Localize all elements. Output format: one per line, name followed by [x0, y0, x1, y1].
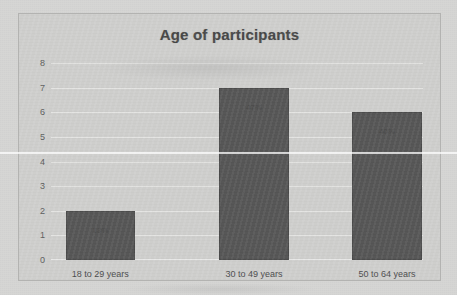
chart-title: Age of participants: [19, 26, 440, 43]
y-axis-tick-6: 6: [40, 107, 45, 117]
bar-30-to-49-years[interactable]: 47%: [219, 88, 289, 260]
bar-50-to-64-years[interactable]: 40%: [352, 112, 422, 260]
x-axis-category-label-1: 30 to 49 years: [219, 269, 289, 279]
bar-value-label-1: 47%: [220, 103, 288, 112]
y-axis-tick-8: 8: [40, 58, 45, 68]
bar-value-label-0: 13%: [67, 226, 134, 235]
y-axis-tick-0: 0: [40, 255, 45, 265]
scan-smudge-bottom: [120, 283, 320, 295]
x-axis-category-label-0: 18 to 29 years: [66, 269, 135, 279]
y-axis-tick-5: 5: [40, 132, 45, 142]
y-axis-tick-1: 1: [40, 230, 45, 240]
gridline-8: [51, 63, 423, 64]
y-axis-tick-2: 2: [40, 206, 45, 216]
bar-18-to-29-years[interactable]: 13%: [66, 211, 135, 260]
plot-area: 8 7 6 5 4 3 2 1 0 13% 18 to 29 years: [51, 63, 423, 260]
bar-value-label-2: 40%: [353, 127, 421, 136]
chart-container: Age of participants 8 7 6 5 4 3 2 1 0: [18, 13, 441, 281]
y-axis-tick-3: 3: [40, 181, 45, 191]
y-axis-tick-7: 7: [40, 83, 45, 93]
y-axis-tick-4: 4: [40, 157, 45, 167]
x-axis-category-label-2: 50 to 64 years: [352, 269, 422, 279]
page-background: Age of participants 8 7 6 5 4 3 2 1 0: [0, 0, 457, 295]
